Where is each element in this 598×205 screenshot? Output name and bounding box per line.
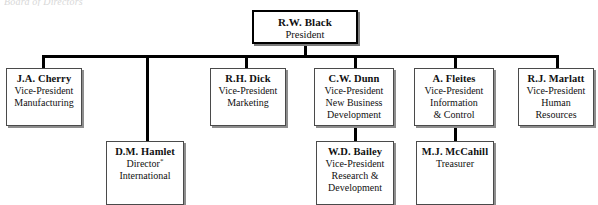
- org-node-name: R.H. Dick: [211, 73, 285, 85]
- org-node-title-line: International: [107, 170, 183, 182]
- org-node-title-line: Marketing: [211, 97, 285, 109]
- org-node-dunn[interactable]: C.W. DunnVice-PresidentNew BusinessDevel…: [314, 68, 394, 126]
- connector-horizontal-bus: [42, 55, 559, 58]
- org-node-name: D.M. Hamlet: [107, 146, 183, 158]
- org-node-title-line: Human: [519, 97, 593, 109]
- org-node-title-line: Vice-President: [415, 85, 493, 97]
- org-node-title-line: Vice-President: [211, 85, 285, 97]
- org-node-dick[interactable]: R.H. DickVice-PresidentMarketing: [210, 68, 286, 126]
- org-chart: Board of Directors R.W. BlackPresidentJ.…: [0, 0, 598, 205]
- org-node-hamlet[interactable]: D.M. HamletDirector*International: [106, 141, 184, 205]
- org-node-name: R.W. Black: [254, 16, 356, 29]
- org-node-title-line: Information: [415, 97, 493, 109]
- org-node-title-line: Vice-President: [315, 85, 393, 97]
- org-node-bailey[interactable]: W.D. BaileyVice-PresidentResearch &Devel…: [316, 141, 394, 205]
- org-node-title-line: New Business: [315, 97, 393, 109]
- org-node-cherry[interactable]: J.A. CherryVice-PresidentManufacturing: [6, 68, 82, 126]
- org-node-title-line: Development: [315, 109, 393, 121]
- org-node-marlatt[interactable]: R.J. MarlattVice-PresidentHumanResources: [518, 68, 594, 126]
- org-node-title-line: President: [254, 29, 356, 41]
- org-node-title-line: Research &: [317, 170, 393, 182]
- org-node-title-line: & Control: [415, 109, 493, 121]
- org-node-title-line: Resources: [519, 109, 593, 121]
- org-node-title-line: Vice-President: [317, 158, 393, 170]
- org-node-mccahill[interactable]: M.J. McCahillTreasurer: [416, 141, 494, 205]
- top-caption: Board of Directors: [4, 0, 204, 6]
- org-node-title-line: Vice-President: [7, 85, 81, 97]
- org-node-name: M.J. McCahill: [417, 146, 493, 158]
- connector-drop-hamlet: [146, 55, 149, 143]
- org-node-name: R.J. Marlatt: [519, 73, 593, 85]
- org-node-name: C.W. Dunn: [315, 73, 393, 85]
- org-node-name: A. Fleites: [415, 73, 493, 85]
- org-node-title-line: Director*: [107, 158, 183, 170]
- org-node-title-line: Manufacturing: [7, 97, 81, 109]
- org-node-title-line: Treasurer: [417, 158, 493, 170]
- org-node-title-line: Vice-President: [519, 85, 593, 97]
- org-node-title-line: Development: [317, 182, 393, 194]
- org-node-name: W.D. Bailey: [317, 146, 393, 158]
- org-node-name: J.A. Cherry: [7, 73, 81, 85]
- footnote-marker: *: [160, 157, 164, 165]
- org-node-president[interactable]: R.W. BlackPresident: [252, 10, 358, 44]
- org-node-fleites[interactable]: A. FleitesVice-PresidentInformation& Con…: [414, 68, 494, 126]
